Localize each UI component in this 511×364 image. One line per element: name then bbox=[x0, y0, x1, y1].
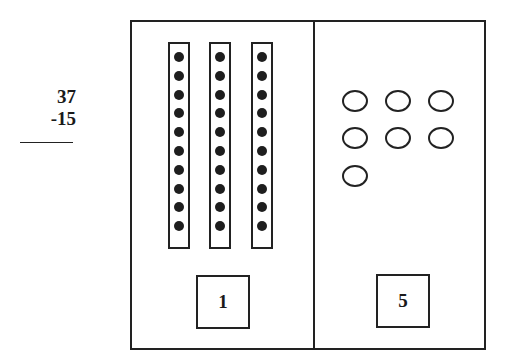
minuend: 37 bbox=[20, 86, 76, 108]
rod-dot bbox=[257, 146, 267, 156]
unit-circle bbox=[342, 90, 368, 112]
rod-dot bbox=[257, 184, 267, 194]
unit-circle bbox=[342, 165, 368, 187]
rod-dot bbox=[215, 90, 225, 100]
tens-rod bbox=[251, 42, 273, 249]
answer-line bbox=[20, 142, 73, 143]
tens-rod bbox=[209, 42, 231, 249]
rod-dot bbox=[215, 202, 225, 212]
rod-dot bbox=[257, 221, 267, 231]
subtraction-problem: 37 -15 bbox=[20, 86, 76, 130]
rod-dot bbox=[257, 108, 267, 118]
rod-dot bbox=[174, 108, 184, 118]
unit-circle bbox=[428, 90, 454, 112]
unit-circle bbox=[385, 127, 411, 149]
rod-dot bbox=[215, 52, 225, 62]
rod-dot bbox=[257, 90, 267, 100]
rod-dot bbox=[257, 71, 267, 81]
unit-circle bbox=[385, 90, 411, 112]
unit-circle bbox=[428, 127, 454, 149]
rod-dot bbox=[215, 165, 225, 175]
column-divider bbox=[313, 22, 315, 348]
rod-dot bbox=[174, 165, 184, 175]
rod-dot bbox=[257, 165, 267, 175]
rod-dot bbox=[215, 71, 225, 81]
rod-dot bbox=[257, 127, 267, 137]
rod-dot bbox=[257, 202, 267, 212]
ones-digit-box: 5 bbox=[376, 274, 430, 328]
rod-dot bbox=[174, 71, 184, 81]
rod-dot bbox=[174, 184, 184, 194]
subtrahend: -15 bbox=[20, 108, 76, 130]
unit-circle bbox=[342, 127, 368, 149]
rod-dot bbox=[174, 90, 184, 100]
rod-dot bbox=[174, 127, 184, 137]
rod-dot bbox=[174, 221, 184, 231]
rod-dot bbox=[174, 202, 184, 212]
tens-rod bbox=[168, 42, 190, 249]
rod-dot bbox=[215, 108, 225, 118]
rod-dot bbox=[215, 127, 225, 137]
rod-dot bbox=[174, 146, 184, 156]
rod-dot bbox=[174, 52, 184, 62]
rod-dot bbox=[215, 221, 225, 231]
tens-digit-box: 1 bbox=[196, 275, 250, 329]
rod-dot bbox=[257, 52, 267, 62]
place-value-mat: 1 5 bbox=[130, 20, 486, 350]
rod-dot bbox=[215, 146, 225, 156]
rod-dot bbox=[215, 184, 225, 194]
